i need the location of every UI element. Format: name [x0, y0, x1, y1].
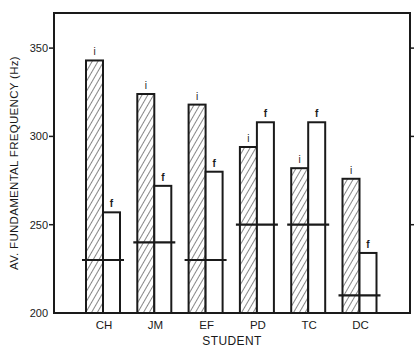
bar-label-f: f — [366, 239, 370, 250]
bar-label-f: f — [161, 172, 165, 183]
bar-label-i: i — [299, 154, 301, 165]
bar-f — [360, 253, 377, 313]
x-tick-label: DC — [352, 319, 369, 331]
bar-label-i: i — [93, 46, 95, 57]
x-tick-label: CH — [96, 319, 113, 331]
x-tick-label: EF — [199, 319, 214, 331]
bar-label-f: f — [315, 108, 319, 119]
bar-i — [343, 179, 360, 313]
bar-label-f: f — [110, 198, 114, 209]
bar-labels: ifCHifJMifEFifPDifTCifDC — [93, 46, 370, 331]
y-tick-label: 250 — [30, 219, 48, 231]
bar-i — [189, 105, 206, 313]
y-axis-label: AV. FUNDAMENTAL FREQUENCY (Hz) — [2, 13, 26, 313]
bar-chart: 200250300350 ifCHifJMifEFifPDifTCifDC AV… — [0, 0, 420, 355]
bar-f — [103, 212, 120, 313]
y-tick-label: 200 — [30, 307, 48, 319]
bar-i — [291, 168, 308, 313]
x-tick-label: PD — [250, 319, 266, 331]
bar-label-i: i — [196, 91, 198, 102]
bar-label-f: f — [212, 158, 216, 169]
bar-label-i: i — [145, 80, 147, 91]
bar-f — [257, 122, 274, 313]
bar-f — [154, 186, 171, 313]
x-tick-label: JM — [148, 319, 163, 331]
x-tick-label: TC — [302, 319, 317, 331]
bar-label-f: f — [264, 108, 268, 119]
plot-area: 200250300350 ifCHifJMifEFifPDifTCifDC — [0, 0, 420, 355]
bar-f — [308, 122, 325, 313]
bar-label-i: i — [350, 165, 352, 176]
y-tick-label: 350 — [30, 42, 48, 54]
bar-i — [137, 94, 154, 313]
reference-lines — [82, 225, 381, 296]
bar-i — [240, 147, 257, 313]
x-axis-label: STUDENT — [54, 334, 410, 348]
bar-i — [86, 60, 103, 313]
bars — [86, 60, 377, 313]
y-tick-label: 300 — [30, 130, 48, 142]
bar-f — [206, 172, 223, 313]
bar-label-i: i — [247, 133, 249, 144]
